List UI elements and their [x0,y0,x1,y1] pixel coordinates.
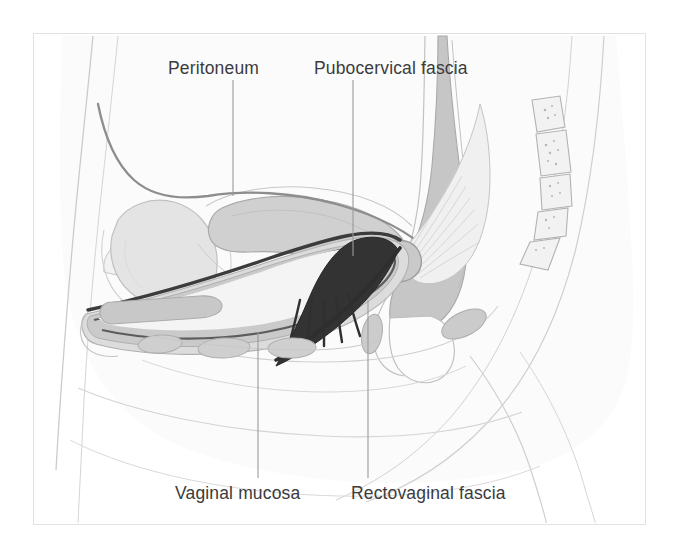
anatomy-figure: Peritoneum Pubocervical fascia Vaginal m… [0,0,680,548]
label-peritoneum: Peritoneum [168,58,259,79]
sacral-segment-3 [540,174,572,210]
label-vaginal-mucosa: Vaginal mucosa [175,483,300,504]
sacral-segment-1 [532,96,565,132]
sacral-segment-2 [536,130,571,176]
coccyx-segment-1 [534,208,568,240]
label-pubocervical-fascia: Pubocervical fascia [314,58,468,79]
anatomy-illustration [0,0,680,548]
label-rectovaginal-fascia: Rectovaginal fascia [351,483,506,504]
